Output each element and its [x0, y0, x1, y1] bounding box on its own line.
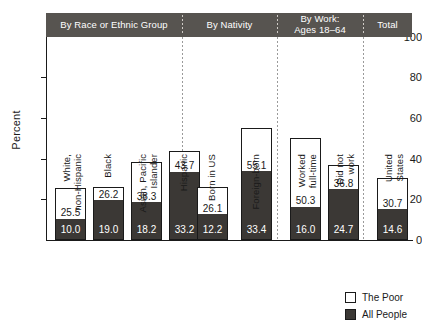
- x-label-born-in-us-line1: Born in US: [207, 154, 218, 244]
- x-label-hispanic: Hispanic: [179, 154, 190, 244]
- group-header-work-line2: Ages 18–64: [294, 25, 346, 36]
- x-label-black-line1: Black: [103, 154, 114, 244]
- poverty-bar-chart: Percent 100 80 60 40 20 0 By Race or Eth…: [0, 0, 422, 334]
- x-label-white-non-hispanic-line2: non-Hispanic: [73, 154, 84, 244]
- group-header-band: By Race or Ethnic Group By Nativity By W…: [46, 13, 412, 37]
- legend-label-the-poor: The Poor: [362, 292, 403, 303]
- group-header-work: By Work: Ages 18–64: [277, 13, 363, 37]
- group-header-nativity: By Nativity: [182, 13, 277, 37]
- x-label-born-in-us: Born in US: [207, 154, 218, 244]
- x-axis-line: [46, 240, 413, 241]
- x-label-worked-full-time-line2: full-time: [308, 154, 319, 244]
- x-label-asian-pacific-islander: Asian, Pacific Islander: [138, 154, 159, 244]
- x-label-worked-full-time: Worked full-time: [297, 154, 318, 244]
- group-header-race: By Race or Ethnic Group: [46, 13, 182, 37]
- group-header-total: Total: [363, 13, 412, 37]
- x-label-hispanic-line1: Hispanic: [179, 154, 190, 244]
- legend-swatch-all-people-icon: [345, 309, 356, 320]
- chart-legend: The Poor All People: [345, 289, 407, 323]
- plot-area: 25.5 10.0 26.2 19.0 38.3 18.2 43.7 33.2 …: [46, 37, 412, 240]
- x-label-did-not-work-line2: work: [346, 154, 357, 244]
- x-label-white-non-hispanic: White, non-Hispanic: [62, 154, 83, 244]
- x-label-did-not-work: Did not work: [335, 154, 356, 244]
- x-label-foreign-born: Foreign-born: [251, 154, 262, 244]
- legend-label-all-people: All People: [362, 309, 407, 320]
- x-label-black: Black: [103, 154, 114, 244]
- y-axis-title: Percent: [10, 95, 22, 165]
- legend-swatch-the-poor-icon: [345, 292, 356, 303]
- legend-item-all-people[interactable]: All People: [345, 306, 407, 323]
- x-label-united-states-line2: States: [395, 154, 406, 244]
- x-label-united-states: United States: [384, 154, 405, 244]
- x-label-foreign-born-line1: Foreign-born: [251, 154, 262, 244]
- x-label-asian-pacific-islander-line2: Islander: [149, 154, 160, 244]
- legend-item-the-poor[interactable]: The Poor: [345, 289, 407, 306]
